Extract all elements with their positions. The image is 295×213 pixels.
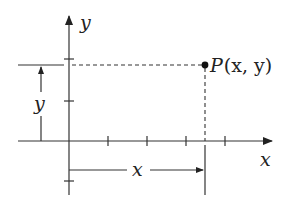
coordinate-plane-diagram: y x P(x, y) y x [0, 0, 295, 213]
y-dimension-label: y [33, 92, 45, 114]
y-axis-label: y [79, 11, 91, 33]
point-p-label: P(x, y) [209, 54, 272, 76]
x-axis [18, 136, 272, 146]
y-axis [64, 16, 74, 195]
point-p-marker [202, 62, 209, 69]
x-axis-label: x [260, 148, 271, 170]
x-dimension-label: x [132, 158, 143, 180]
